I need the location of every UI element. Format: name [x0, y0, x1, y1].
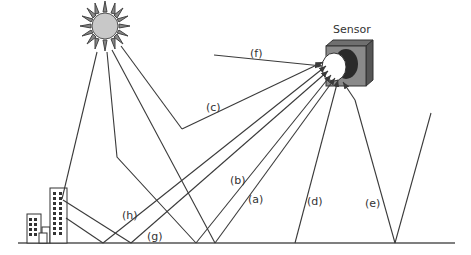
label-b: (b): [230, 174, 246, 187]
label-f: (f): [250, 47, 262, 60]
diagram-canvas: Sensor: [0, 0, 471, 255]
buildings-icon: [27, 188, 67, 243]
label-a: (a): [248, 193, 263, 206]
sun-icon: [80, 1, 130, 51]
label-e: (e): [365, 197, 380, 210]
sensor-icon: [322, 40, 373, 86]
label-g: (g): [147, 230, 163, 243]
label-h: (h): [122, 209, 138, 222]
label-c: (c): [206, 101, 221, 114]
label-d: (d): [307, 195, 323, 208]
sensor-label: Sensor: [333, 23, 371, 36]
radiation-paths: [62, 46, 431, 243]
